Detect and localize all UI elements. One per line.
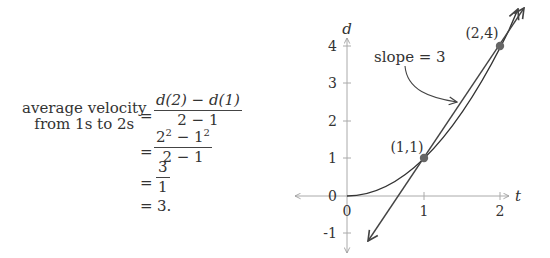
x-tick-1: 1 [420, 203, 429, 219]
point-label-2-4: (2,4) [465, 25, 498, 41]
point-2-4 [496, 42, 504, 50]
point-1-1 [420, 154, 428, 162]
y-tick-4: 4 [328, 38, 337, 54]
x-axis-label: t [515, 187, 522, 205]
x-tick-2: 2 [496, 203, 505, 219]
y-tick-0: 0 [328, 188, 337, 204]
annotation-arrow [405, 66, 457, 102]
y-axis-label: d [342, 20, 352, 38]
graph: 0 1 2 -1 0 1 2 3 4 d t (1,1) (2,4) slope… [0, 0, 550, 258]
y-tick-labels: -1 0 1 2 3 4 [323, 38, 337, 241]
slope-annotation: slope = 3 [374, 48, 446, 66]
x-tick-labels: 0 1 2 [343, 203, 505, 219]
y-tick-2: 2 [328, 113, 337, 129]
x-tick-0: 0 [343, 203, 352, 219]
y-tick-3: 3 [328, 75, 337, 91]
point-label-1-1: (1,1) [390, 139, 423, 155]
y-tick-1: 1 [328, 150, 337, 166]
y-tick-neg1: -1 [323, 225, 337, 241]
